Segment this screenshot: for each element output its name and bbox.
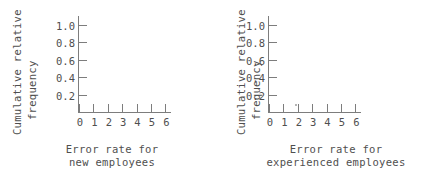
x-tick-label: 0 [267, 116, 273, 128]
x-tick-label: 3 [120, 116, 126, 128]
stray-speck [295, 104, 297, 106]
x-tick-mark: 3 [312, 104, 313, 112]
x-tick-label: 2 [296, 116, 302, 128]
figure-canvas: Cumulative relative frequency 0.20.40.60… [0, 0, 448, 176]
x-axis-title: Error rate for experienced employees [224, 143, 448, 169]
y-tick-label: 0.8 [56, 37, 75, 49]
x-tick-label: 5 [339, 116, 345, 128]
x-tick-mark: 5 [151, 104, 152, 112]
x-tick-label: 0 [77, 116, 83, 128]
plot-area: 0.20.40.60.81.00123456 [268, 16, 361, 113]
y-tick-mark: 0.2 [79, 95, 87, 96]
x-tick-mark: 6 [355, 104, 356, 112]
y-tick-label: 0.6 [246, 55, 265, 67]
y-tick-label: 0.4 [246, 72, 265, 84]
y-tick-mark: 1.0 [79, 25, 87, 26]
plot-area: 0.20.40.60.81.00123456 [78, 16, 171, 113]
x-tick-mark: 3 [122, 104, 123, 112]
y-tick-mark: 0.4 [269, 77, 277, 78]
x-tick-mark: 0 [79, 104, 80, 112]
y-tick-mark: 1.0 [269, 25, 277, 26]
x-axis-title-line2: new employees [0, 156, 224, 169]
y-tick-label: 1.0 [56, 20, 75, 32]
y-tick-label: 0.8 [246, 37, 265, 49]
x-tick-mark: 4 [137, 104, 138, 112]
x-tick-label: 4 [324, 116, 330, 128]
y-tick-mark: 0.8 [269, 42, 277, 43]
x-tick-label: 6 [353, 116, 359, 128]
y-tick-mark: 0.2 [269, 95, 277, 96]
y-axis-title-line2: frequency [26, 60, 38, 120]
y-tick-label: 1.0 [246, 20, 265, 32]
x-tick-label: 2 [106, 116, 112, 128]
x-tick-mark: 1 [93, 104, 94, 112]
chart-panel-experienced-employees: Cumulative relative frequency 0.20.40.60… [224, 0, 448, 176]
y-tick-label: 0.6 [56, 55, 75, 67]
y-tick-label: 0.2 [56, 90, 75, 102]
x-axis-title-line1: Error rate for [224, 143, 448, 156]
x-tick-mark: 6 [165, 104, 166, 112]
x-axis-title: Error rate for new employees [0, 143, 224, 169]
y-tick-label: 0.4 [56, 72, 75, 84]
chart-panel-new-employees: Cumulative relative frequency 0.20.40.60… [0, 0, 224, 176]
y-axis-title-line1: Cumulative relative [11, 9, 23, 135]
y-tick-mark: 0.8 [79, 42, 87, 43]
x-tick-mark: 1 [283, 104, 284, 112]
x-tick-mark: 2 [298, 104, 299, 112]
x-tick-mark: 2 [108, 104, 109, 112]
x-tick-label: 4 [134, 116, 140, 128]
x-tick-mark: 5 [341, 104, 342, 112]
y-tick-mark: 0.6 [269, 60, 277, 61]
x-tick-label: 1 [281, 116, 287, 128]
y-tick-mark: 0.4 [79, 77, 87, 78]
x-tick-label: 5 [149, 116, 155, 128]
x-tick-label: 3 [310, 116, 316, 128]
x-axis-title-line1: Error rate for [0, 143, 224, 156]
x-tick-label: 6 [163, 116, 169, 128]
x-axis-title-line2: experienced employees [224, 156, 448, 169]
x-tick-label: 1 [91, 116, 97, 128]
y-tick-label: 0.2 [246, 90, 265, 102]
x-tick-mark: 4 [327, 104, 328, 112]
x-tick-mark: 0 [269, 104, 270, 112]
y-tick-mark: 0.6 [79, 60, 87, 61]
